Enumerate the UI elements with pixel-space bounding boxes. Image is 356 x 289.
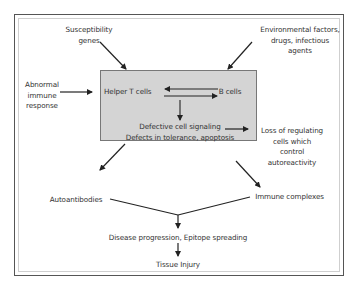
arrow-environment-to-box [228, 42, 252, 69]
node-environmental-factors: Environmental factors, drugs, infectious… [255, 25, 345, 57]
arrow-box-to-autoantibodies [100, 144, 125, 170]
line-autoantibodies-to-merge [110, 199, 178, 215]
line-immune-complexes-to-merge [178, 197, 250, 215]
node-disease-progression: Disease progression, Epitope spreading [100, 233, 256, 244]
node-tissue-injury: Tissue Injury [148, 260, 208, 271]
node-helper-t-cells: Helper T cells [104, 87, 160, 98]
node-immune-complexes: Immune complexes [252, 192, 327, 203]
node-b-cells: B cells [210, 87, 250, 98]
node-defective-signaling: Defective cell signaling Defects in tole… [120, 122, 240, 143]
node-susceptibility-genes: Susceptibility genes [54, 25, 124, 46]
node-loss-of-regulating-cells: Loss of regulating cells which control a… [252, 126, 332, 168]
node-abnormal-immune-response: Abnormal immune response [20, 80, 64, 112]
node-autoantibodies: Autoantibodies [46, 195, 106, 206]
arrow-susceptibility-to-box [100, 42, 126, 69]
